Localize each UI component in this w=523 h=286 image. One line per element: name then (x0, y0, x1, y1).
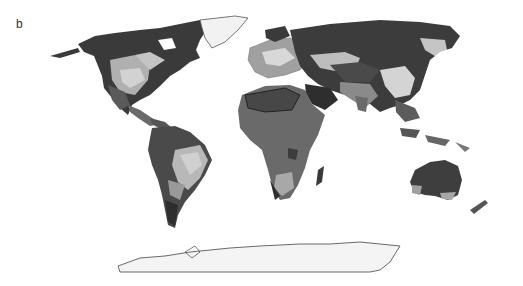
antarctica (118, 242, 400, 272)
world-map (0, 0, 523, 286)
greenland (200, 16, 248, 48)
new-zealand (470, 200, 488, 214)
madagascar (316, 166, 324, 186)
south-america (148, 126, 212, 228)
australia (410, 160, 462, 200)
asia (290, 20, 460, 122)
north-america (50, 20, 215, 126)
southeast-asia (400, 128, 470, 152)
